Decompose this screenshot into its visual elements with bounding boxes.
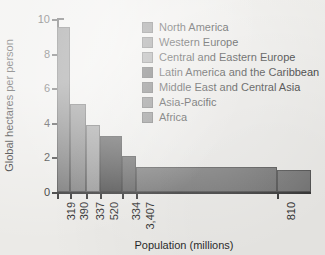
legend-item: Asia-Pacific [142, 95, 319, 109]
y-axis-tick-label: 6 [44, 83, 50, 94]
x-axis-tick-label: 810 [286, 202, 297, 220]
x-axis-tick [57, 194, 59, 199]
y-axis-tick-label: 2 [44, 152, 50, 163]
x-axis-tick-labels: 3193903375203343,407810 [57, 194, 311, 239]
legend: North AmericaWestern EuropeCentral and E… [142, 20, 319, 124]
legend-item: Africa [142, 110, 319, 124]
x-axis-tick-label: 3,407 [145, 202, 156, 230]
x-axis-tick-label: 520 [109, 202, 120, 220]
x-axis-tick [277, 194, 279, 199]
y-axis-tick-label: 8 [44, 48, 50, 59]
legend-item-label: Central and Eastern Europe [159, 52, 295, 63]
bar [86, 125, 100, 192]
legend-item: Latin America and the Caribbean [142, 65, 319, 79]
legend-swatch-icon [142, 37, 153, 48]
y-axis-tick-label: 0 [44, 187, 50, 198]
y-axis-top-cap [57, 18, 64, 20]
legend-item: North America [142, 20, 319, 34]
x-axis-tick [100, 194, 102, 199]
legend-item: Central and Eastern Europe [142, 50, 319, 64]
legend-item-label: Middle East and Central Asia [159, 82, 300, 93]
legend-item: Western Europe [142, 35, 319, 49]
bar-chart-figure: Global hectares per person 0246810 North… [0, 0, 325, 255]
plot-area: 0246810 North AmericaWestern EuropeCentr… [57, 19, 311, 192]
bar [122, 156, 136, 192]
y-axis-title: Global hectares per person [2, 19, 16, 192]
bar [100, 136, 122, 192]
legend-swatch-icon [142, 67, 153, 78]
legend-item: Middle East and Central Asia [142, 80, 319, 94]
legend-swatch-icon [142, 52, 153, 63]
legend-swatch-icon [142, 97, 153, 108]
legend-item-label: North America [159, 22, 229, 33]
y-axis-tick [52, 19, 58, 21]
y-axis-tick-label: 10 [38, 14, 50, 25]
x-axis-tick [86, 194, 88, 199]
bar [136, 167, 277, 192]
legend-swatch-icon [142, 22, 153, 33]
bar [70, 104, 86, 192]
y-axis-tick-label: 4 [44, 117, 50, 128]
x-axis-tick-label: 337 [95, 202, 106, 220]
legend-item-label: Western Europe [159, 37, 238, 48]
legend-item-label: Latin America and the Caribbean [159, 67, 319, 78]
legend-swatch-icon [142, 82, 153, 93]
x-axis-tick [136, 194, 138, 199]
x-axis-title: Population (millions) [57, 239, 311, 251]
x-axis-tick-label: 390 [79, 202, 90, 220]
bar [277, 170, 311, 192]
legend-swatch-icon [142, 112, 153, 123]
legend-item-label: Asia-Pacific [159, 97, 216, 108]
x-axis-tick [122, 194, 124, 199]
x-axis-tick-label: 334 [131, 202, 142, 220]
legend-item-label: Africa [159, 112, 187, 123]
x-axis-tick [70, 194, 72, 199]
x-axis-tick-label: 319 [66, 202, 77, 220]
bar [57, 27, 70, 192]
